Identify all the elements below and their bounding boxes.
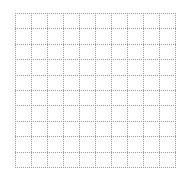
dotted-grid [15, 13, 175, 167]
canvas [0, 0, 181, 178]
grid-lines [15, 13, 176, 168]
